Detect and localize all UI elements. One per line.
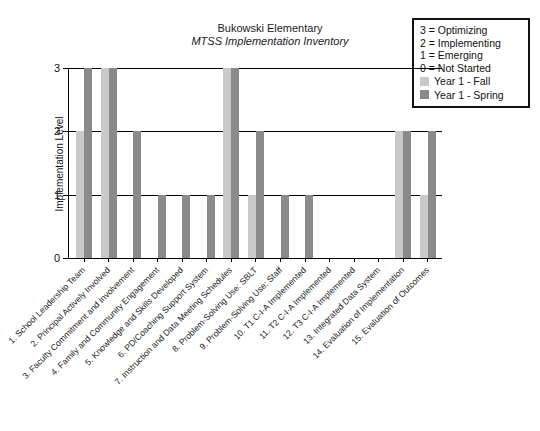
x-tick <box>427 258 428 262</box>
chart-subtitle: MTSS Implementation Inventory <box>140 35 400 48</box>
y-tick-0 <box>63 258 68 259</box>
mtss-implementation-bar-chart: Bukowski Elementary MTSS Implementation … <box>0 0 540 431</box>
bar-group <box>170 68 195 258</box>
bar-group <box>72 68 97 258</box>
legend-label-fall: Year 1 - Fall <box>434 75 490 88</box>
bar-group <box>415 68 440 258</box>
bar-group <box>268 68 293 258</box>
bar-spring[interactable] <box>231 68 239 258</box>
bar-spring[interactable] <box>84 68 92 258</box>
x-tick <box>231 258 232 262</box>
bar-fall[interactable] <box>76 131 84 258</box>
x-tick <box>157 258 158 262</box>
y-tick-label-1: 1 <box>54 189 60 200</box>
legend-label-spring: Year 1 - Spring <box>434 89 504 102</box>
bar-spring[interactable] <box>256 131 264 258</box>
x-tick <box>305 258 306 262</box>
plot-area: Implementation Level 0123 <box>68 68 442 259</box>
bar-group <box>195 68 220 258</box>
bar-fall[interactable] <box>248 195 256 258</box>
x-tick <box>108 258 109 262</box>
x-tick <box>206 258 207 262</box>
bar-spring[interactable] <box>281 195 289 258</box>
bar-spring[interactable] <box>133 131 141 258</box>
bar-fall[interactable] <box>101 68 109 258</box>
y-tick-3 <box>63 68 68 69</box>
bar-group <box>391 68 416 258</box>
chart-title: Bukowski Elementary <box>140 22 400 35</box>
x-tick <box>182 258 183 262</box>
bar-group <box>366 68 391 258</box>
bar-fall[interactable] <box>395 131 403 258</box>
legend-scale-item-2: 2 = Implementing <box>420 37 523 50</box>
bar-group <box>293 68 318 258</box>
bar-group <box>244 68 269 258</box>
x-tick <box>378 258 379 262</box>
x-tick <box>84 258 85 262</box>
chart-title-block: Bukowski Elementary MTSS Implementation … <box>140 22 400 48</box>
y-tick-label-2: 2 <box>54 126 60 137</box>
legend-scale-item-1: 1 = Emerging <box>420 49 523 62</box>
bar-group <box>342 68 367 258</box>
bar-group <box>97 68 122 258</box>
y-tick-label-0: 0 <box>54 253 60 264</box>
x-tick <box>280 258 281 262</box>
x-tick <box>133 258 134 262</box>
y-tick-label-3: 3 <box>54 63 60 74</box>
bar-spring[interactable] <box>305 195 313 258</box>
bar-spring[interactable] <box>428 131 436 258</box>
bar-spring[interactable] <box>182 195 190 258</box>
bar-group <box>317 68 342 258</box>
y-tick-2 <box>63 131 68 132</box>
bar-spring[interactable] <box>158 195 166 258</box>
bar-group <box>219 68 244 258</box>
bar-group <box>121 68 146 258</box>
bar-spring[interactable] <box>403 131 411 258</box>
bar-spring[interactable] <box>207 195 215 258</box>
legend-scale-item-3: 3 = Optimizing <box>420 24 523 37</box>
x-tick <box>354 258 355 262</box>
x-tick <box>329 258 330 262</box>
y-tick-1 <box>63 195 68 196</box>
x-tick <box>403 258 404 262</box>
x-tick <box>255 258 256 262</box>
y-axis-line <box>68 68 69 259</box>
bar-group <box>146 68 171 258</box>
bar-fall[interactable] <box>420 195 428 258</box>
bar-fall[interactable] <box>223 68 231 258</box>
bar-spring[interactable] <box>109 68 117 258</box>
